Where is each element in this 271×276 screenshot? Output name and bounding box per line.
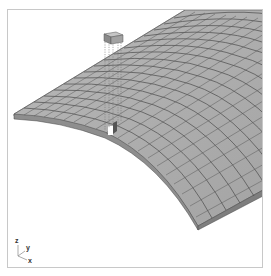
axis-z-label: z xyxy=(15,237,19,244)
axis-x-label: x xyxy=(28,257,32,264)
detached-block xyxy=(104,32,123,44)
missing-block-gap xyxy=(108,126,113,135)
axis-y-label: y xyxy=(26,244,30,251)
vault-model xyxy=(0,0,271,276)
